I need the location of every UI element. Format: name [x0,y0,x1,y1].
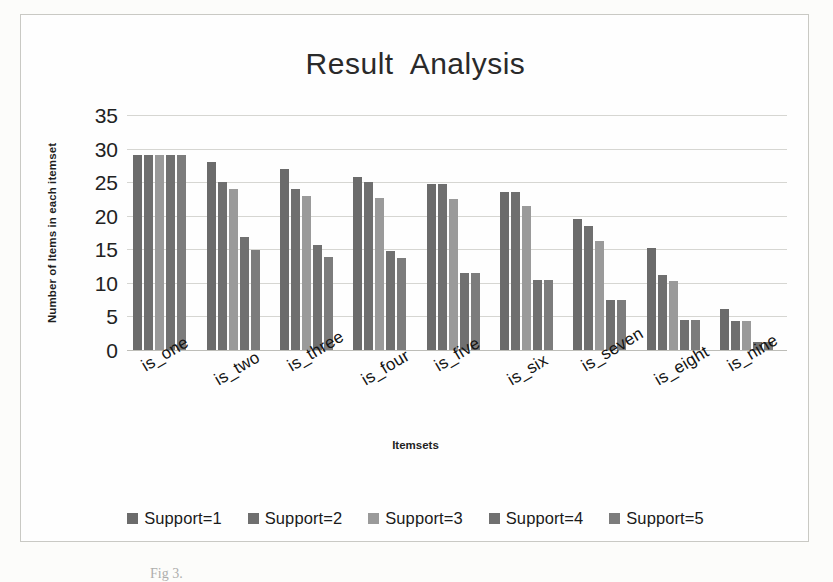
bar [573,219,582,350]
bar [144,155,153,350]
legend-swatch-icon [368,513,379,524]
legend-item[interactable]: Support=2 [248,509,343,528]
bar-group [573,115,626,350]
plot-area: 05101520253035 [127,115,787,350]
bar [449,199,458,350]
bar [133,155,142,350]
legend-item[interactable]: Support=5 [609,509,704,528]
bar [166,155,175,350]
bar [533,280,542,351]
y-axis-tick-label: 15 [95,239,118,260]
y-axis-tick-label: 30 [95,138,118,159]
bar [544,280,553,351]
legend-label: Support=4 [506,509,584,528]
bar [522,206,531,350]
legend-swatch-icon [127,513,138,524]
bar [280,169,289,350]
legend-item[interactable]: Support=1 [127,509,222,528]
bar [291,189,300,350]
x-axis-category-label: is_four [358,346,413,390]
bar [302,196,311,350]
bar-group [207,115,260,350]
bar [251,250,260,350]
y-axis-tick-label: 25 [95,172,118,193]
bar [669,281,678,350]
bar [427,184,436,350]
chart-frame: Result Analysis Number of Items in each … [20,14,809,542]
chart-legend: Support=1Support=2Support=3Support=4Supp… [21,509,810,528]
bar [177,155,186,350]
y-axis-tick-label: 0 [106,340,118,361]
legend-item[interactable]: Support=3 [368,509,463,528]
bar-group [353,115,406,350]
bars-layer [127,115,787,350]
chart-title: Result Analysis [21,47,810,81]
bar [240,237,249,350]
bar-group [280,115,333,350]
y-axis-tick-label: 5 [106,306,118,327]
bar-group [647,115,700,350]
bar [375,198,384,350]
bar-group [427,115,480,350]
figure-caption: Fig 3. [150,566,183,582]
scanned-page: Result Analysis Number of Items in each … [0,0,833,582]
legend-swatch-icon [609,513,620,524]
legend-label: Support=1 [144,509,222,528]
bar [155,155,164,350]
bar [313,245,322,350]
bar [364,182,373,350]
legend-label: Support=2 [265,509,343,528]
bar [218,182,227,350]
bar [595,241,604,350]
y-axis-tick-label: 35 [95,105,118,126]
bar [353,177,362,350]
legend-swatch-icon [248,513,259,524]
bar [658,275,667,350]
bar [647,248,656,350]
x-axis-category-label: is_six [504,350,552,390]
bar [511,192,520,350]
bar [397,258,406,350]
x-axis-title: Itemsets [21,439,810,451]
bar [584,226,593,350]
bar [720,309,729,350]
legend-swatch-icon [489,513,500,524]
bar-group [720,115,773,350]
bar [680,320,689,350]
bar [500,192,509,350]
x-axis-category-labels: is_oneis_twois_threeis_fouris_fiveis_six… [127,353,787,449]
bar [731,321,740,350]
legend-item[interactable]: Support=4 [489,509,584,528]
bar [207,162,216,350]
y-axis-tick-label: 20 [95,205,118,226]
y-axis-title: Number of Items in each itemset [46,118,58,348]
bar-group [500,115,553,350]
bar-group [133,115,186,350]
legend-label: Support=5 [626,509,704,528]
legend-label: Support=3 [385,509,463,528]
y-axis-tick-label: 10 [95,272,118,293]
bar [438,184,447,350]
bar [386,251,395,350]
bar [229,189,238,350]
x-axis-category-label: is_two [211,348,264,391]
